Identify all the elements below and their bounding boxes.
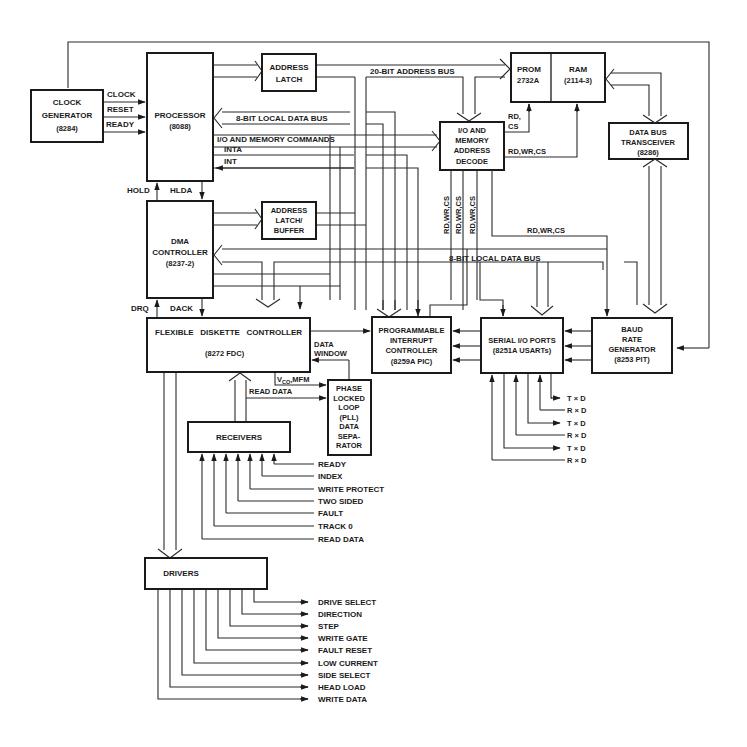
driver-output-side-select: SIDE SELECT [318,671,371,680]
dma-label-2: CONTROLLER [152,248,208,257]
pic-label-2: INTERRUPT [390,336,433,345]
pll-label-4: (PLL) [339,413,359,422]
inta-label: INTA [224,145,242,154]
serial-io-ports-block: SERIAL I/O PORTS (8251A USARTs) [481,318,563,373]
receiver-input-write-protect: WRITE PROTECT [318,485,384,494]
rd-wr-cs-label: RD,WR,CS [508,147,546,156]
address-latch-buffer-block: ADDRESS LATCH/ BUFFER [262,202,316,239]
receiver-input-fault: FAULT [318,509,343,518]
address-latch-label-1: ADDRESS [269,63,309,72]
receiver-inputs: READY INDEX WRITE PROTECT TWO SIDED FAUL… [202,454,384,544]
read-data-pll-label: READ DATA [249,387,293,396]
receivers-block: RECEIVERS [188,422,290,452]
fdc-label-2: (8272 FDC) [205,349,245,358]
rd-wr-cs-vertical-2: RD,WR,CS [454,196,463,234]
transceiver-to-baud-bus [643,159,667,313]
hold-hlda-signals: HOLD HLDA [127,182,202,200]
driver-output-low-current: LOW CURRENT [318,659,378,668]
clock-generator-label-3: (8284) [56,124,78,133]
vco-mfm-signal: VCO,MFM [275,373,326,385]
dma-controller-block: DMA CONTROLLER (8237-2) [147,201,213,298]
read-data-to-pll: READ DATA [246,387,326,398]
processor-to-address-latch-bus [214,61,262,81]
baud-label-4: (8253 PIT) [614,355,650,364]
pic-label-3: CONTROLLER [385,346,438,355]
baud-label-2: RATE [622,335,642,344]
data-bus-transceiver-block: DATA BUS TRANSCEIVER (8286) [609,123,688,159]
latch-buffer-outputs [317,213,366,225]
reset-signal-label: RESET [107,105,134,114]
serial-line-txd-3: T × D [567,444,586,453]
pic-label-4: (8259A PIC) [391,357,433,366]
receiver-input-two-sided: TWO SIDED [318,497,364,506]
drivers-label: DRIVERS [163,569,199,578]
prom-label-2: 2732A [517,76,540,85]
driver-output-head-load: HEAD LOAD [318,683,366,692]
int-label: INT [224,157,237,166]
data-window-label-1: DATA [314,340,334,349]
data-window-signal: DATA WINDOW [312,340,349,379]
drq-label: DRQ [131,304,149,313]
receiver-input-ready: READY [318,460,347,469]
io-memory-commands: I/O AND MEMORY COMMANDS INTA INT [214,131,440,310]
programmable-interrupt-controller-block: PROGRAMMABLE INTERRUPT CONTROLLER (8259A… [372,317,451,373]
baud-label-1: BAUD [621,325,643,334]
pll-label-2: LOCKED [333,394,365,403]
baud-rate-generator-block: BAUD RATE GENERATOR (8253 PIT) [592,318,672,373]
address-bus-label: 20-BIT ADDRESS BUS [370,67,455,76]
ready-signal-label: READY [106,120,135,129]
processor-block: PROCESSOR (8088) [147,53,213,181]
drivers-block: DRIVERS [145,558,267,589]
fdc-label-1: FLEXIBLE DISKETTE CONTROLLER [155,328,302,337]
serial-io-label-1: SERIAL I/O PORTS [488,336,555,345]
rd-cs-label-1: RD, [508,112,521,121]
dma-to-latch-bus [214,209,262,229]
io-memory-address-decode-block: I/O AND MEMORY ADDRESS DECODE [440,122,504,170]
transceiver-label-1: DATA BUS [629,128,666,137]
decode-label-3: ADDRESS [454,146,491,155]
transceiver-label-2: TRANSCEIVER [621,138,675,147]
latch-buffer-label-1: ADDRESS [271,206,308,215]
decode-label-2: MEMORY [455,136,488,145]
rd-cs-label-2: CS [508,122,518,131]
rd-wr-cs-vertical-1: RD,WR,CS [442,196,451,234]
clock-generator-block: CLOCK GENERATOR (8284) [31,90,103,142]
driver-output-direction: DIRECTION [318,610,362,619]
decode-to-memory-signals: RD, CS RD,WR,CS [505,104,577,157]
clock-signals: CLOCK RESET READY [104,90,145,132]
clock-signal-label: CLOCK [107,90,136,99]
pll-label-3: LOOP [338,403,359,412]
ram-label-1: RAM [569,65,588,74]
clock-generator-label-2: GENERATOR [42,111,93,120]
ram-transceiver-bus [606,69,667,123]
pll-data-separator-block: PHASE LOCKED LOOP (PLL) DATA SEPA- RATOR [328,380,371,455]
serial-to-pic-interrupts [453,331,481,360]
receiver-input-track-0: TRACK 0 [318,522,353,531]
pll-label-1: PHASE [336,384,362,393]
receivers-label: RECEIVERS [216,433,263,442]
pll-label-7: RATOR [336,441,363,450]
driver-output-write-gate: WRITE GATE [318,634,368,643]
serial-io-label-2: (8251A USARTs) [493,346,552,355]
rd-wr-cs-mid-label: RD,WR,CS [527,226,565,235]
driver-output-fault-reset: FAULT RESET [318,646,372,655]
latch-buffer-label-3: BUFFER [274,226,305,235]
receiver-input-index: INDEX [318,472,343,481]
drq-dack-signals: DRQ DACK [131,299,202,318]
decode-label-4: DECODE [456,157,488,166]
local-data-bus-mid-label: 8-BIT LOCAL DATA BUS [449,254,541,263]
vco-label: VCO,MFM [277,375,309,385]
hold-label: HOLD [127,186,150,195]
prom-label-1: PROM [517,65,541,74]
address-latch-block: ADDRESS LATCH [262,54,316,91]
fdc-to-drivers-bus [158,373,182,558]
serial-line-rxd-2: R × D [567,431,587,440]
fdc-system-block-diagram: CLOCK GENERATOR (8284) CLOCK RESET READY… [0,0,747,747]
serial-lines: T × D R × D T × D R × D T × D R × D [492,374,587,465]
clock-generator-label-1: CLOCK [53,98,82,107]
dma-label-3: (8237-2) [166,259,195,268]
pic-label-1: PROGRAMMABLE [379,326,445,335]
pll-label-6: SEPA- [338,432,361,441]
driver-output-drive-select: DRIVE SELECT [318,598,376,607]
rd-wr-cs-vertical-3: RD,WR,CS [468,196,477,234]
